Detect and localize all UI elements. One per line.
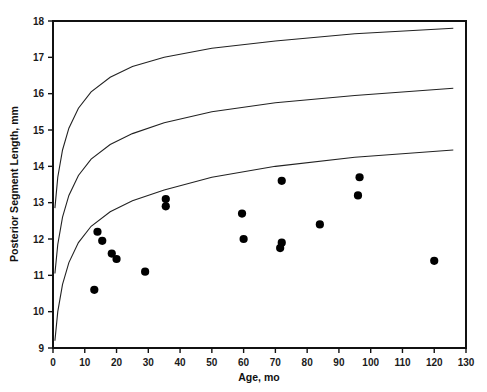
x-tick-label: 20 [111,357,123,368]
x-tick-label: 60 [238,357,250,368]
y-tick-label: 13 [33,197,45,208]
data-points [90,173,438,294]
data-point [276,244,284,252]
x-tick-label: 30 [143,357,155,368]
y-tick-label: 15 [33,125,45,136]
x-tick-label: 90 [333,357,345,368]
figure-container: 9101112131415161718 01020304050607080901… [0,0,487,392]
data-point [162,202,170,210]
data-point [354,191,362,199]
data-point [316,220,324,228]
x-tick-label: 50 [206,357,218,368]
y-tick-label: 18 [33,16,45,27]
data-point [355,173,363,181]
data-point [430,257,438,265]
y-tick-label: 11 [33,270,44,281]
y-tick-label: 12 [33,234,45,245]
data-point [238,209,246,217]
x-tick-label: 130 [458,357,475,368]
y-tick-label: 16 [33,88,45,99]
y-tick-label: 17 [33,52,45,63]
x-axis-title: Age, mo [238,371,279,383]
x-tick-label: 10 [79,357,91,368]
data-point [93,228,101,236]
y-tick-label: 10 [33,306,45,317]
y-axis-ticks: 9101112131415161718 [33,16,53,354]
data-point [98,237,106,245]
x-tick-label: 110 [394,357,411,368]
x-tick-label: 70 [270,357,282,368]
data-point [240,235,248,243]
x-tick-label: 100 [362,357,379,368]
reference-curve [55,150,453,341]
data-point [162,195,170,203]
reference-curve [55,28,453,208]
reference-curves [55,28,453,340]
scatter-plot: 9101112131415161718 01020304050607080901… [0,0,487,392]
y-axis-title: Posterior Segment Length, mm [8,106,20,262]
data-point [90,286,98,294]
x-tick-label: 0 [50,357,56,368]
y-tick-label: 14 [33,161,45,172]
data-point [278,177,286,185]
y-tick-label: 9 [38,343,44,354]
x-tick-label: 120 [426,357,443,368]
x-axis-ticks: 0102030405060708090100110120130 [50,348,475,368]
axes-box [53,21,466,348]
x-tick-label: 80 [302,357,314,368]
x-tick-label: 40 [175,357,187,368]
reference-curve [55,88,453,273]
data-point [112,255,120,263]
data-point [141,268,149,276]
plot-frame [53,21,466,348]
